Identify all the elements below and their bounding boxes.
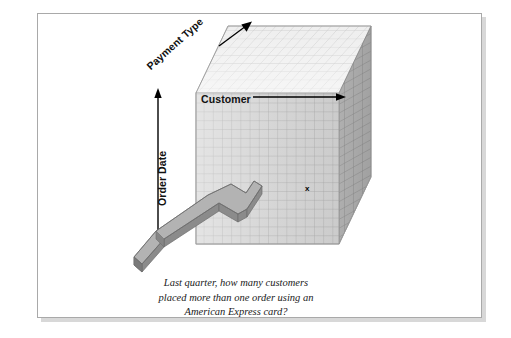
- figure-page: Customer Payment Type Order Date x Last …: [0, 0, 511, 338]
- figure-caption: Last quarter, how many customers placed …: [96, 276, 376, 317]
- caption-line-2: placed more than one order using an: [96, 291, 376, 306]
- axis-label-order-date: Order Date: [156, 151, 168, 206]
- caption-line-1: Last quarter, how many customers: [96, 276, 376, 291]
- axis-label-payment-type: Payment Type: [144, 15, 205, 72]
- query-pointer-arrow: [134, 181, 262, 272]
- customer-axis-arrow: [253, 93, 346, 101]
- axis-label-customer: Customer: [201, 93, 251, 105]
- figure-frame: Customer Payment Type Order Date x Last …: [37, 13, 482, 318]
- olap-cube-graphic: [38, 14, 481, 317]
- caption-line-3: American Express card?: [96, 305, 376, 317]
- figure-frame-inner: Customer Payment Type Order Date x Last …: [38, 14, 481, 317]
- cube-front-face: [196, 93, 339, 244]
- cube-top-face: [196, 26, 371, 93]
- selected-cell-marker: x: [305, 184, 309, 193]
- cube-right-face: [339, 26, 371, 244]
- payment-type-axis-arrow: [219, 22, 252, 47]
